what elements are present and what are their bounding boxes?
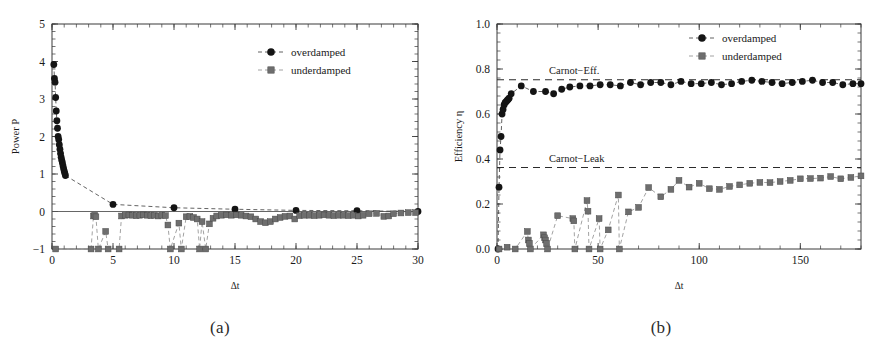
data-point-overdamped bbox=[597, 81, 604, 88]
x-tick-label: 5 bbox=[110, 254, 116, 266]
data-point-overdamped bbox=[558, 86, 565, 93]
data-point-underdamped bbox=[757, 180, 763, 186]
y-tick-label: 0.4 bbox=[476, 153, 491, 165]
series-connector-overdamped bbox=[498, 80, 861, 249]
data-point-underdamped bbox=[727, 184, 733, 190]
data-point-underdamped bbox=[597, 246, 603, 252]
data-point-underdamped bbox=[585, 208, 591, 214]
data-point-underdamped bbox=[605, 227, 611, 233]
data-point-underdamped bbox=[391, 211, 397, 217]
data-point-underdamped bbox=[93, 214, 99, 220]
legend-label-overdamped: overdamped bbox=[291, 46, 346, 58]
y-tick-label: 1 bbox=[39, 168, 45, 180]
x-tick-label: 150 bbox=[792, 254, 810, 266]
data-point-underdamped bbox=[808, 176, 814, 182]
data-point-overdamped bbox=[518, 82, 525, 89]
data-point-underdamped bbox=[88, 246, 94, 252]
data-point-underdamped bbox=[206, 221, 212, 227]
data-point-underdamped bbox=[398, 210, 404, 216]
data-point-underdamped bbox=[797, 176, 803, 182]
data-point-underdamped bbox=[176, 220, 182, 226]
y-tick-label: 5 bbox=[39, 18, 45, 30]
x-tick-label: 10 bbox=[168, 254, 180, 266]
data-point-overdamped bbox=[617, 82, 624, 89]
data-point-underdamped bbox=[767, 180, 773, 186]
chart-panel-b: 0501001500.00.20.40.60.81.0Carnot−Eff.Ca… bbox=[441, 0, 881, 346]
data-point-overdamped bbox=[688, 80, 695, 87]
data-point-underdamped bbox=[676, 177, 682, 183]
data-point-overdamped bbox=[171, 204, 178, 211]
data-point-underdamped bbox=[526, 240, 532, 246]
data-point-underdamped bbox=[747, 180, 753, 186]
data-point-overdamped bbox=[587, 82, 594, 89]
data-point-overdamped bbox=[708, 79, 715, 86]
data-point-underdamped bbox=[626, 209, 632, 215]
data-point-underdamped bbox=[203, 246, 209, 252]
data-point-underdamped bbox=[777, 179, 783, 185]
x-axis-title: Δt bbox=[231, 281, 240, 291]
data-point-overdamped bbox=[678, 78, 685, 85]
x-axis-title: Δt bbox=[675, 281, 684, 291]
data-point-overdamped bbox=[728, 80, 735, 87]
data-point-overdamped bbox=[657, 79, 664, 86]
data-point-underdamped bbox=[616, 246, 622, 252]
data-point-underdamped bbox=[584, 198, 590, 204]
data-point-overdamped bbox=[779, 80, 786, 87]
data-point-overdamped bbox=[566, 84, 573, 91]
data-point-underdamped bbox=[686, 184, 692, 190]
data-point-overdamped bbox=[508, 90, 515, 97]
legend-marker-underdamped bbox=[268, 67, 274, 73]
data-point-underdamped bbox=[360, 212, 366, 218]
x-tick-label: 50 bbox=[592, 254, 604, 266]
data-point-underdamped bbox=[405, 210, 411, 216]
data-point-overdamped bbox=[627, 79, 634, 86]
data-point-underdamped bbox=[818, 175, 824, 181]
data-point-overdamped bbox=[829, 79, 836, 86]
x-tick-label: 0 bbox=[494, 254, 500, 266]
data-point-overdamped bbox=[637, 81, 644, 88]
legend-label-underdamped: underdamped bbox=[722, 50, 782, 62]
data-point-underdamped bbox=[555, 213, 561, 219]
data-point-overdamped bbox=[809, 77, 816, 84]
data-point-underdamped bbox=[366, 211, 372, 217]
legend-marker-underdamped bbox=[699, 53, 705, 59]
legend-marker-overdamped bbox=[267, 48, 275, 56]
data-point-overdamped bbox=[52, 79, 59, 86]
data-point-underdamped bbox=[706, 186, 712, 192]
data-point-underdamped bbox=[496, 246, 502, 252]
data-point-underdamped bbox=[504, 244, 510, 250]
x-tick-label: 0 bbox=[49, 254, 55, 266]
data-point-underdamped bbox=[105, 246, 111, 252]
data-point-overdamped bbox=[718, 81, 725, 88]
legend-label-underdamped: underdamped bbox=[291, 64, 351, 76]
data-point-underdamped bbox=[199, 219, 205, 225]
y-tick-label: 3 bbox=[39, 93, 45, 105]
data-point-underdamped bbox=[527, 246, 533, 252]
y-tick-label: 0 bbox=[39, 206, 45, 218]
series-connector-underdamped bbox=[499, 176, 861, 249]
data-point-overdamped bbox=[647, 79, 654, 86]
data-point-underdamped bbox=[658, 194, 664, 200]
y-tick-label: 0.6 bbox=[476, 108, 491, 120]
y-axis-title: Power P bbox=[10, 119, 21, 154]
panel-a-caption: (a) bbox=[0, 318, 440, 338]
data-point-overdamped bbox=[607, 81, 614, 88]
data-point-overdamped bbox=[769, 79, 776, 86]
reference-line-label: Carnot−Eff. bbox=[549, 65, 599, 76]
y-tick-label: 2 bbox=[39, 131, 45, 143]
data-point-underdamped bbox=[596, 216, 602, 222]
data-point-overdamped bbox=[839, 81, 846, 88]
data-point-overdamped bbox=[50, 61, 57, 68]
data-point-underdamped bbox=[165, 222, 171, 228]
data-point-underdamped bbox=[95, 246, 101, 252]
data-point-overdamped bbox=[759, 78, 766, 85]
data-point-underdamped bbox=[737, 182, 743, 188]
data-point-underdamped bbox=[828, 174, 834, 180]
y-tick-label: −1 bbox=[33, 243, 45, 255]
data-point-overdamped bbox=[698, 80, 705, 87]
x-tick-label: 100 bbox=[691, 254, 709, 266]
data-point-overdamped bbox=[62, 172, 69, 179]
data-point-underdamped bbox=[838, 176, 844, 182]
data-point-overdamped bbox=[497, 147, 504, 154]
data-point-underdamped bbox=[178, 246, 184, 252]
